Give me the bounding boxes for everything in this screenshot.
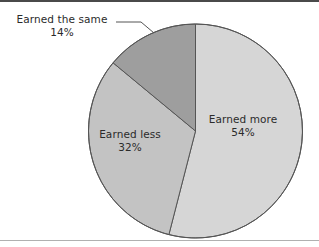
slice-label-earned-less: Earned less 32% bbox=[84, 128, 176, 154]
slice-label-earned-the-same-value: 14% bbox=[6, 26, 118, 39]
pie-chart-figure: Earned more 54% Earned less 32% Earned t… bbox=[0, 0, 319, 247]
slice-label-earned-the-same-name: Earned the same bbox=[6, 13, 118, 26]
figure-bottom-rule bbox=[0, 240, 319, 241]
slice-label-earned-more-value: 54% bbox=[196, 126, 290, 139]
chart-plot-area: Earned more 54% Earned less 32% Earned t… bbox=[0, 0, 319, 247]
slice-label-earned-more: Earned more 54% bbox=[196, 113, 290, 139]
leader-line-earned-the-same bbox=[116, 22, 154, 33]
slice-label-earned-less-value: 32% bbox=[84, 141, 176, 154]
slice-label-earned-the-same: Earned the same 14% bbox=[6, 13, 118, 39]
slice-label-earned-less-name: Earned less bbox=[84, 128, 176, 141]
slice-label-earned-more-name: Earned more bbox=[196, 113, 290, 126]
